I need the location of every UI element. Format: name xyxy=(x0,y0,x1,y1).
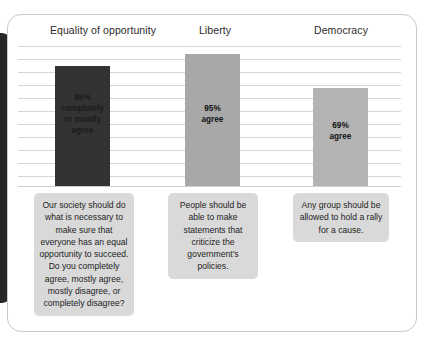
bar-equality-of-opportunity[interactable]: 86% completely or mostly agree xyxy=(55,66,110,186)
bar-label-equality-line3: or mostly xyxy=(55,114,110,125)
bar-label-equality-line1: 86% xyxy=(55,92,110,103)
bar-democracy[interactable]: 69% agree xyxy=(313,88,368,186)
bar-label-equality-line4: agree xyxy=(55,125,110,136)
bar-liberty[interactable]: 95% agree xyxy=(185,54,240,186)
figure-panel: Equality of opportunity Liberty Democrac… xyxy=(0,0,427,348)
caption-democracy: Any group should be allowed to hold a ra… xyxy=(293,193,389,242)
column-header-democracy: Democracy xyxy=(298,24,384,36)
bar-label-democracy-line1: 69% xyxy=(313,120,368,131)
caption-equality-of-opportunity: Our society should do what is necessary … xyxy=(34,193,134,316)
gridline xyxy=(18,46,401,47)
column-header-liberty: Liberty xyxy=(172,24,258,36)
column-header-equality: Equality of opportunity xyxy=(18,24,188,36)
caption-liberty: People should be able to make statements… xyxy=(168,193,258,279)
axis-baseline xyxy=(18,186,401,187)
bar-label-equality-line2: completely xyxy=(55,103,110,114)
bar-label-liberty-line2: agree xyxy=(185,114,240,125)
bar-label-liberty-line1: 95% xyxy=(185,103,240,114)
bar-label-democracy-line2: agree xyxy=(313,131,368,142)
